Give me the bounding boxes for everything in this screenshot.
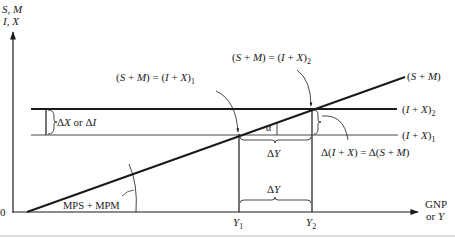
delta-eq-pointer — [322, 116, 348, 140]
y2-label: Y2 — [306, 216, 316, 231]
saving-import-line — [27, 77, 405, 212]
equilibrium-1-arrow — [216, 91, 238, 132]
x-axis-label-or: or — [426, 210, 438, 222]
y1-label: Y1 — [233, 216, 243, 231]
alpha-label: α — [266, 122, 272, 133]
injections-1-label: (I + X)1 — [402, 129, 435, 144]
delta-x-brace — [48, 110, 57, 134]
equilibrium-1-label: (S + M) = (I + X)1 — [116, 71, 195, 86]
injections-2-label: (I + X)2 — [402, 103, 435, 118]
x-axis-label-1: GNP — [425, 198, 447, 210]
y-axis-label-2: I, X — [2, 15, 20, 27]
slope-label: MPS + MPM — [63, 200, 120, 211]
delta-y-lower-brace — [240, 197, 311, 203]
delta-y-upper-label: ΔY — [267, 147, 282, 159]
x-axis-label-y: Y — [438, 210, 446, 222]
equilibrium-2-arrow — [297, 70, 311, 106]
delta-inj-brace — [314, 110, 321, 134]
diagram-canvas: S, M I, X 0 GNP or Y ΔX or ΔI α ΔY ΔY Δ(… — [0, 0, 455, 238]
x-axis-label-2: or Y — [426, 210, 446, 222]
saving-import-label: (S + M) — [407, 70, 441, 83]
y-axis-label-1: S, M — [2, 3, 23, 15]
delta-x-or-i-label: ΔX or ΔI — [57, 116, 98, 128]
delta-equation-label: Δ(I + X) = Δ(S + M) — [321, 146, 410, 159]
equilibrium-2-label: (S + M) = (I + X)2 — [232, 51, 311, 66]
delta-y-lower-label: ΔY — [267, 183, 282, 195]
slope-angle-arc — [129, 164, 136, 212]
delta-y-upper-brace — [240, 137, 311, 143]
slope-angle-pointer — [122, 190, 134, 196]
origin-label: 0 — [0, 206, 6, 218]
